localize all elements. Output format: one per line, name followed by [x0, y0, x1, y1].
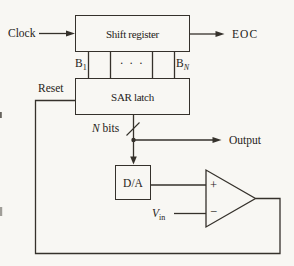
shift-register-label: Shift register [106, 28, 159, 40]
vin-subscript: in [159, 213, 165, 222]
reset-label: Reset [38, 82, 64, 94]
scan-artifact-bottom [0, 207, 2, 216]
dac-arrowhead-icon [130, 157, 137, 165]
clock-arrowhead-icon [66, 30, 75, 36]
vin-label: Vin [152, 207, 165, 224]
junction-dot [131, 138, 135, 142]
eoc-arrowhead-icon [216, 31, 225, 37]
output-arrowhead-icon [213, 137, 222, 143]
bit1-subscript: 1 [83, 63, 87, 72]
shift-register-block: Shift register [75, 15, 190, 52]
comparator-plus-label: + [210, 179, 217, 191]
vin-base: V [152, 207, 159, 219]
bitn-subscript: N [184, 63, 189, 72]
nbits-label: N bits [92, 122, 119, 134]
sar-latch-label: SAR latch [111, 91, 154, 103]
clock-label: Clock [8, 27, 35, 39]
bit1-base: B [75, 57, 83, 69]
dac-label: D/A [123, 177, 143, 189]
eoc-label: EOC [232, 28, 258, 40]
scan-artifact-top [0, 112, 2, 118]
nbits-rest: bits [100, 122, 120, 134]
comparator-minus-label: − [210, 206, 217, 218]
bitn-base: B [176, 57, 184, 69]
ellipsis-dots-label: · · · [119, 57, 145, 69]
bit1-label: B1 [75, 57, 87, 74]
nbits-n: N [92, 122, 100, 134]
sar-latch-block: SAR latch [75, 78, 190, 115]
bitn-label: BN [176, 57, 189, 74]
feedback-reset-wire [36, 101, 281, 254]
sar-adc-diagram: Shift register SAR latch D/A Clock EOC B… [0, 0, 294, 266]
output-label: Output [229, 134, 261, 146]
dac-block: D/A [115, 165, 151, 200]
